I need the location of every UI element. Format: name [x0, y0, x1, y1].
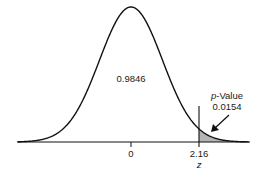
- tick-label-critical: 2.16: [190, 148, 209, 159]
- arrow-icon: [214, 115, 229, 129]
- z-axis-label: z: [196, 159, 202, 170]
- normal-distribution-chart: 0.9846 p-Value 0.0154 0 2.16 z: [0, 0, 260, 180]
- p-value-suffix: -Value: [216, 90, 243, 101]
- p-value-number: 0.0154: [212, 101, 241, 112]
- body-area-label: 0.9846: [116, 73, 145, 84]
- p-value-label: p-Value: [210, 90, 243, 101]
- tick-label-zero: 0: [128, 148, 133, 159]
